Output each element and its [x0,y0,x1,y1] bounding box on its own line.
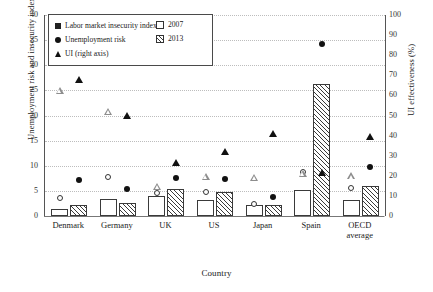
gridline [45,166,385,167]
y-tick-left: 0 [14,212,38,220]
legend-entry[interactable]: 2007 [156,20,183,29]
x-axis-line [44,216,384,217]
legend-label: Labor market insecurity index [65,21,157,30]
bar-2013 [265,205,282,216]
y-tick-right: 40 [389,132,415,140]
gridline [45,90,385,91]
marker-triangle-filled [123,112,131,119]
marker-circle-filled [76,177,82,183]
x-category-label: Spain [287,220,336,230]
x-category-label: Germany [93,220,142,230]
x-category-label: OECDaverage [335,220,384,240]
marker-circle-filled [173,175,179,181]
marker-triangle-open [153,183,161,190]
marker-triangle-filled [318,169,326,176]
y-tick-right: 0 [389,212,415,220]
marker-circle-open [57,195,63,201]
y-tick-right: 30 [389,152,415,160]
gridline [45,141,385,142]
x-axis-title: Country [0,268,433,278]
bar-2007 [294,190,311,216]
legend: Labor market insecurity indexUnemploymen… [48,14,213,66]
marker-triangle-open [347,172,355,179]
marker-triangle-open [250,174,258,181]
y-tick-left: 35 [14,36,38,44]
y-tick-left: 30 [14,61,38,69]
marker-triangle-open [299,170,307,177]
y-tick-right: 50 [389,112,415,120]
gridline [45,191,385,192]
y-tick-left: 40 [14,11,38,19]
marker-triangle-filled [366,133,374,140]
bar-2013 [216,192,233,216]
marker-circle-open [203,189,209,195]
marker-triangle-filled [172,159,180,166]
bar-2013 [119,203,136,216]
chart-container: Unemployment risk and insecurity index (… [0,0,433,292]
marker-triangle-filled [221,148,229,155]
marker-triangle-open [202,173,210,180]
legend-entry[interactable]: Unemployment risk [55,35,126,44]
bar-2007 [148,196,165,216]
marker-circle-filled [270,194,276,200]
y-tick-right: 70 [389,71,415,79]
legend-entry[interactable]: 2013 [156,34,183,43]
legend-entry[interactable]: Labor market insecurity index [55,21,157,30]
bar-2013 [167,189,184,216]
legend-label: Unemployment risk [65,35,126,44]
marker-circle-filled [319,41,325,47]
bar-2007 [343,200,360,216]
bar-2013 [313,84,330,216]
bar-2007 [100,199,117,216]
bar-2007 [197,200,214,216]
marker-triangle-open [56,87,64,94]
y-tick-left: 10 [14,162,38,170]
marker-circle-open [105,174,111,180]
gridline [45,116,385,117]
legend-label: 2007 [168,20,183,29]
marker-triangle-filled [269,130,277,137]
x-category-label: Denmark [44,220,93,230]
circle-icon [55,37,61,43]
marker-circle-open [154,190,160,196]
y-tick-right: 60 [389,91,415,99]
marker-triangle-open [104,108,112,115]
x-category-label: US [190,220,239,230]
y-tick-right: 100 [389,11,415,19]
bar-2013 [70,205,87,216]
square-icon [55,23,61,29]
hatched-bar-icon [156,35,164,43]
y-tick-left: 25 [14,86,38,94]
y-tick-right: 90 [389,31,415,39]
y-tick-right: 20 [389,172,415,180]
marker-circle-open [251,201,257,207]
legend-entry[interactable]: UI (right axis) [55,49,108,58]
marker-circle-filled [222,176,228,182]
y-tick-left: 5 [14,187,38,195]
legend-label: 2013 [168,34,183,43]
bar-2013 [362,186,379,216]
y-tick-right: 10 [389,192,415,200]
x-category-label: UK [141,220,190,230]
marker-triangle-filled [75,76,83,83]
y-tick-right: 80 [389,51,415,59]
triangle-icon [55,51,61,57]
y-tick-left: 15 [14,137,38,145]
marker-circle-filled [367,164,373,170]
y-tick-left: 20 [14,112,38,120]
open-bar-icon [156,21,164,29]
legend-label: UI (right axis) [65,49,108,58]
y-axis-left-title: Unemployment risk and insecurity index (… [26,0,36,156]
x-category-label: Japan [238,220,287,230]
